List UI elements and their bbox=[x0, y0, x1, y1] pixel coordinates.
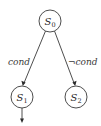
state-node-s2: S 2 bbox=[65, 86, 87, 108]
state-subscript-s0: 0 bbox=[52, 21, 56, 29]
state-label-s1: S bbox=[17, 92, 24, 103]
edge-label-not-cond: ¬cond bbox=[68, 57, 98, 67]
state-label-s0: S bbox=[45, 16, 52, 27]
state-subscript-s1: 1 bbox=[24, 97, 28, 105]
edge-label-cond: cond bbox=[8, 57, 30, 67]
state-node-s0: S 0 bbox=[39, 10, 61, 32]
arrowhead-icon bbox=[20, 119, 24, 124]
state-node-s1: S 1 bbox=[11, 86, 33, 108]
state-label-s2: S bbox=[71, 92, 78, 103]
state-diagram: cond ¬cond S 0 S 1 S 2 bbox=[0, 0, 101, 126]
edge-s1-outgoing bbox=[20, 108, 24, 123]
state-subscript-s2: 2 bbox=[78, 97, 82, 105]
